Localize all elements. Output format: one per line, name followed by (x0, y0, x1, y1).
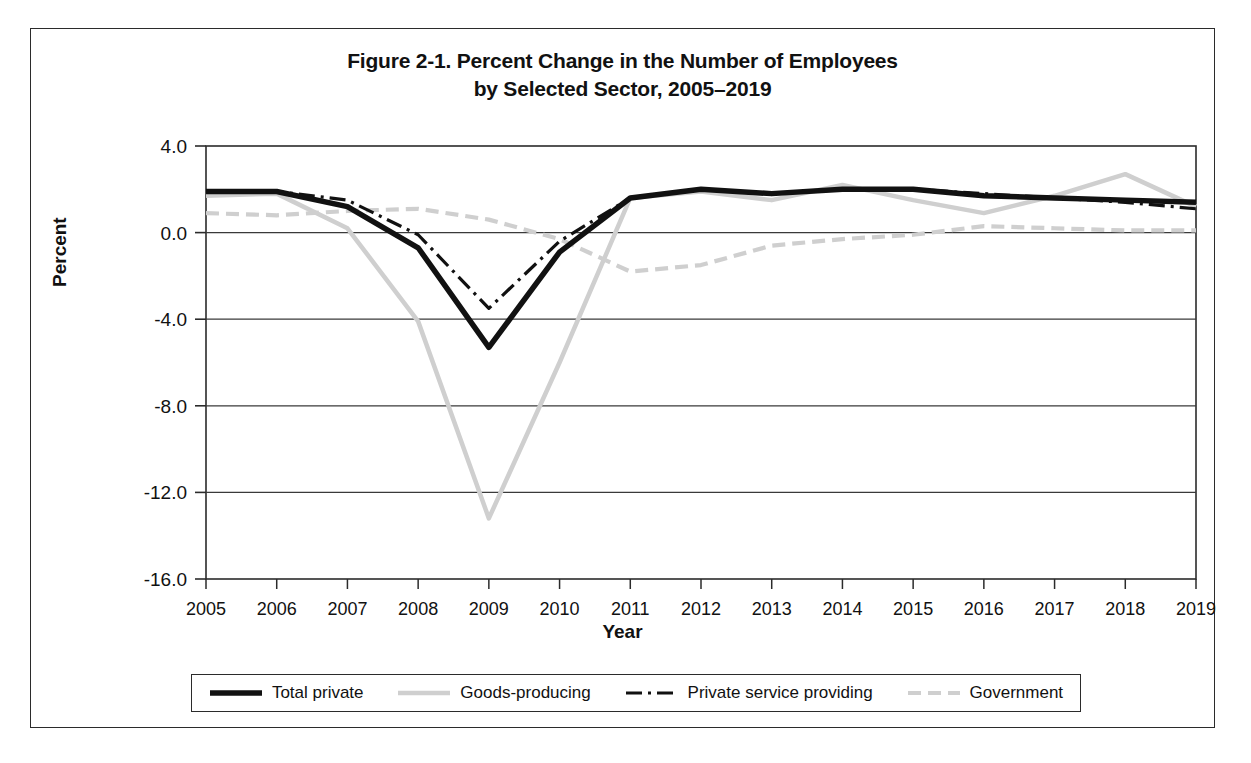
x-tick-label: 2010 (540, 599, 580, 619)
legend-item[interactable]: Private service providing (621, 683, 877, 703)
legend-swatch-icon (209, 686, 263, 700)
legend-item-label: Goods-producing (460, 683, 590, 703)
x-tick-label: 2012 (681, 599, 721, 619)
figure-frame: Figure 2-1. Percent Change in the Number… (30, 28, 1215, 728)
x-tick-label: 2011 (611, 599, 650, 619)
x-tick-label: 2013 (752, 599, 792, 619)
legend-swatch-icon (397, 686, 451, 700)
legend-item-label: Government (970, 683, 1064, 703)
y-tick-label: -4.0 (154, 309, 187, 330)
x-tick-label: 2015 (893, 599, 933, 619)
series-line (206, 174, 1196, 518)
line-chart-svg: 4.00.0-4.0-8.0-12.0-16.02005200620072008… (31, 29, 1216, 729)
y-tick-label: -16.0 (144, 569, 187, 590)
x-tick-label: 2009 (469, 599, 509, 619)
series-line (206, 189, 1196, 308)
legend-item[interactable]: Government (903, 683, 1068, 703)
legend-item[interactable]: Goods-producing (393, 683, 594, 703)
y-tick-label: 4.0 (161, 136, 187, 157)
x-tick-label: 2007 (327, 599, 367, 619)
legend-swatch-icon (625, 686, 679, 700)
x-tick-label: 2014 (822, 599, 862, 619)
x-tick-label: 2018 (1105, 599, 1145, 619)
legend-item-label: Private service providing (688, 683, 873, 703)
x-tick-label: 2019 (1176, 599, 1216, 619)
x-tick-label: 2016 (964, 599, 1004, 619)
chart-legend: Total privateGoods-producingPrivate serv… (191, 674, 1081, 712)
legend-item-label: Total private (272, 683, 364, 703)
y-tick-label: -8.0 (154, 396, 187, 417)
x-tick-label: 2008 (398, 599, 438, 619)
x-tick-label: 2017 (1035, 599, 1075, 619)
legend-swatch-icon (907, 686, 961, 700)
plot-area: 4.00.0-4.0-8.0-12.0-16.02005200620072008… (31, 29, 1216, 729)
x-tick-label: 2005 (186, 599, 226, 619)
legend-item[interactable]: Total private (205, 683, 368, 703)
y-tick-label: 0.0 (161, 223, 187, 244)
y-tick-label: -12.0 (144, 482, 187, 503)
x-tick-label: 2006 (257, 599, 297, 619)
series-line (206, 189, 1196, 347)
